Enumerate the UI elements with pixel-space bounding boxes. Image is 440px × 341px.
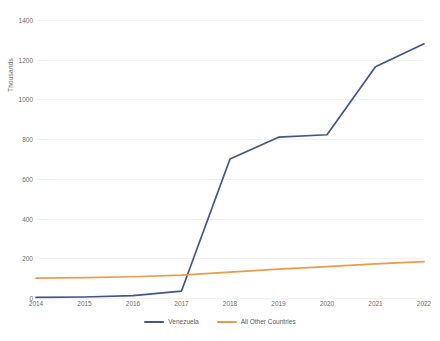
x-tick-2022: 2022 bbox=[417, 300, 431, 307]
legend-label: Venezuela bbox=[168, 318, 198, 325]
y-tick-800: 800 bbox=[3, 136, 33, 143]
y-axis-tick-labels: 0200400600800100012001400 bbox=[0, 20, 33, 298]
x-tick-2014: 2014 bbox=[29, 300, 43, 307]
chart-legend: VenezuelaAll Other Countries bbox=[0, 318, 440, 325]
plot-area bbox=[36, 20, 424, 298]
y-tick-400: 400 bbox=[3, 215, 33, 222]
series-lines bbox=[36, 20, 424, 298]
x-tick-2016: 2016 bbox=[126, 300, 140, 307]
line-chart: Thousands 0200400600800100012001400 2014… bbox=[0, 0, 440, 341]
x-tick-2017: 2017 bbox=[174, 300, 188, 307]
series-line-all-other-countries bbox=[36, 262, 424, 278]
legend-label: All Other Countries bbox=[241, 318, 296, 325]
y-tick-1200: 1200 bbox=[3, 56, 33, 63]
y-tick-1400: 1400 bbox=[3, 17, 33, 24]
x-tick-2020: 2020 bbox=[320, 300, 334, 307]
legend-swatch-icon bbox=[144, 321, 164, 323]
series-line-venezuela bbox=[36, 44, 424, 298]
legend-swatch-icon bbox=[217, 321, 237, 323]
x-tick-2018: 2018 bbox=[223, 300, 237, 307]
y-tick-200: 200 bbox=[3, 255, 33, 262]
legend-item-venezuela[interactable]: Venezuela bbox=[144, 318, 198, 325]
gridline-0 bbox=[36, 298, 424, 299]
x-tick-2015: 2015 bbox=[77, 300, 91, 307]
x-tick-2019: 2019 bbox=[271, 300, 285, 307]
x-axis-tick-labels: 201420152016201720182019202020212022 bbox=[36, 300, 424, 314]
y-tick-600: 600 bbox=[3, 175, 33, 182]
y-tick-1000: 1000 bbox=[3, 96, 33, 103]
legend-item-all-other-countries[interactable]: All Other Countries bbox=[217, 318, 296, 325]
x-tick-2021: 2021 bbox=[368, 300, 382, 307]
